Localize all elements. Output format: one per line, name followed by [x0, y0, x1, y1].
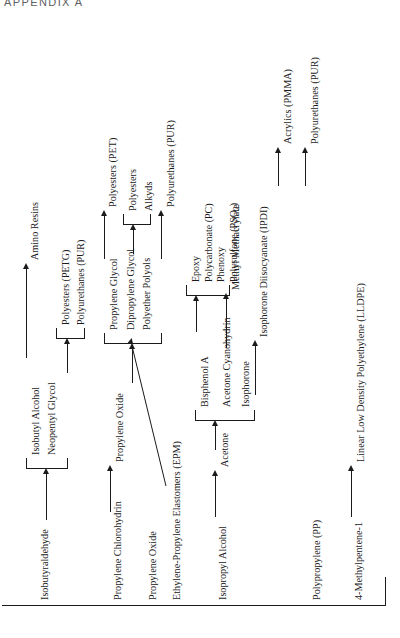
node-polycarbonate: Polycarbonate (PC) — [204, 203, 214, 282]
edge-propylene-oxide-bracket-stem — [132, 348, 133, 383]
bracket-tick-bisphenol — [195, 410, 196, 421]
node-ipdi: Isophorone Diisocyanate (IPDI) — [259, 206, 269, 337]
bracket-tick-pur1 — [84, 328, 85, 339]
edge-bisphenol-stem — [196, 300, 197, 332]
node-acrylics-pmma: Acrylics (PMMA) — [283, 69, 293, 144]
node-isopropyl-alcohol: Isopropyl Alcohol — [218, 526, 228, 600]
bracket-tick-propylene-glycol — [104, 333, 105, 344]
arrowhead-acetone — [212, 470, 218, 476]
arrowhead-acrylics-pmma — [275, 147, 281, 153]
node-polyurethanes-pur-2: Polyurethanes (PUR) — [166, 120, 176, 207]
node-polyether-polyols: Polyether Polyols — [142, 258, 152, 330]
edge-ipdi-to-pur — [305, 152, 306, 186]
bracket-tick-polyether-polyols — [161, 333, 162, 344]
node-phenoxy: Phenoxy — [216, 247, 226, 282]
node-propylene-chlorohydrin: Propylene Chlorohydrin — [113, 501, 123, 600]
node-acetone: Acetone — [220, 433, 230, 467]
node-epm: Ethylene-Propylene Elastomers (EPM) — [172, 441, 182, 600]
trunk-right-tick — [385, 577, 386, 606]
node-propylene-glycol: Propylene Glycol — [109, 258, 119, 330]
bracket-tick-isobutyl — [26, 458, 27, 469]
bracket-tick-isophorone — [254, 410, 255, 421]
node-isobutyl-alcohol: Isobutyl Alcohol — [31, 387, 41, 455]
node-isophorone: Isophorone — [241, 361, 251, 407]
edge-propylene-glycol-to-pet — [104, 215, 105, 259]
edge-chlorohydrin-stem — [110, 470, 111, 512]
bracket-oxide-split — [104, 343, 162, 344]
node-acetone-cyanohydrin: Acetone Cyanohydrin — [222, 317, 232, 407]
node-dipropylene-glycol: Dipropylene Glycol — [126, 249, 136, 330]
node-polyesters-petg: Polyesters (PETG) — [61, 250, 71, 325]
node-bisphenol-a: Bisphenol A — [200, 356, 210, 407]
edge-isophorone-to-ipdi — [255, 345, 256, 395]
node-neopentyl-glycol: Neopentyl Glycol — [47, 382, 57, 455]
arrowhead-polyurethanes-pur-2 — [158, 210, 164, 216]
page-header: APPENDIX A — [4, 0, 83, 8]
bracket-tick-polyesters — [123, 214, 124, 225]
node-polyesters-pet: Polyesters (PET) — [108, 138, 118, 207]
edge-acetone-bracket-stem — [215, 425, 216, 450]
edge-polyols-to-pur — [161, 215, 162, 259]
bracket-tick-epoxy — [186, 285, 187, 296]
arrowhead-methyl-methacrylate — [223, 293, 229, 299]
bracket-neopentyl-split — [56, 338, 85, 339]
node-polyesters: Polyesters — [128, 169, 138, 211]
edge-diagonal-to-oxide-bracket — [112, 338, 172, 488]
edge-mma-to-acrylics — [278, 152, 279, 186]
diagram-canvas: APPENDIX A Isobutyraldehyde Isobutyl Alc… — [0, 0, 400, 638]
edge-methylpentene-to-lldpe — [351, 470, 352, 517]
bracket-tick-petg — [56, 328, 57, 339]
node-methylpentene: 4-Methylpentene-1 — [354, 522, 364, 600]
bracket-isobutyraldehyde-split — [26, 468, 68, 469]
arrowhead-polyesters-pet — [101, 210, 107, 216]
node-propylene-oxide-stem: Propylene Oxide — [148, 531, 158, 600]
edge-cyanohydrin-to-mma — [226, 298, 227, 348]
bracket-tick-neopentyl — [67, 458, 68, 469]
arrowhead-amino-resins — [23, 263, 29, 269]
node-polyurethanes-pur-1: Polyurethanes (PUR) — [76, 240, 86, 325]
node-polyurethanes-pur-3: Polyurethanes (PUR) — [310, 57, 320, 144]
arrowhead-lldpe — [348, 465, 354, 471]
bracket-tick-alkyds — [150, 214, 151, 225]
edge-dipropylene-stem — [133, 229, 134, 254]
node-amino-resins: Amino Resins — [30, 202, 40, 260]
trunk-spine — [2, 605, 386, 606]
arrowhead-ipdi — [252, 340, 258, 346]
edge-isobutyl-to-amino — [26, 268, 27, 358]
edge-isobutyraldehyde-stem — [46, 473, 47, 520]
arrowhead-polyurethanes-pur-3 — [302, 147, 308, 153]
node-epoxy: Epoxy — [191, 256, 201, 282]
edge-isopropyl-to-acetone — [215, 475, 216, 517]
node-alkyds: Alkyds — [144, 182, 154, 211]
bracket-acetone-split — [195, 420, 255, 421]
node-isobutyraldehyde: Isobutyraldehyde — [40, 529, 50, 600]
bracket-dipropylene-split — [123, 224, 151, 225]
edge-neopentyl-stem — [67, 343, 68, 373]
node-polypropylene: Polypropylene (PP) — [312, 520, 322, 600]
node-lldpe: Linear Low Density Polyethylene (LLDPE) — [356, 283, 366, 462]
node-methyl-methacrylate: Methyl Methacrylate — [231, 204, 241, 290]
